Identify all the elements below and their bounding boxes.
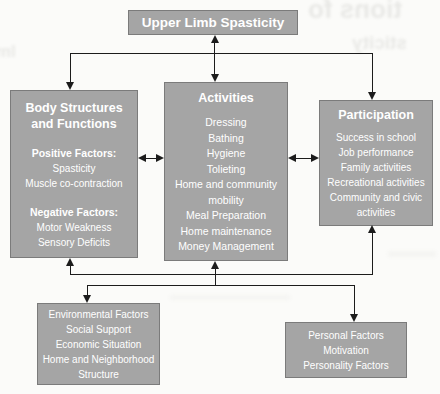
arrowhead-up-into-title-box	[211, 35, 219, 43]
body-structures-functions-box: Body Structures and Functions Positive F…	[10, 90, 138, 258]
participation-item: Family activities	[324, 160, 428, 175]
connector-rail-body	[70, 53, 71, 82]
environmental-factors-box: Environmental Factors Social Support Eco…	[37, 303, 160, 385]
arrowhead-right-into-participation	[311, 154, 319, 162]
connector-bottom-rail-lower	[87, 285, 355, 286]
arrowhead-left-into-body-structures	[138, 154, 146, 162]
environmental-item: Home and Neighborhood Structure	[42, 352, 155, 382]
positive-factor-item: Muscle co-contraction	[15, 176, 133, 191]
scan-smudge	[170, 296, 290, 299]
activity-item: Meal Preparation	[170, 208, 282, 224]
negative-factor-item: Sensory Deficits	[15, 235, 133, 250]
environmental-item: Environmental Factors	[42, 307, 155, 322]
activity-item: Home and community mobility	[170, 177, 282, 208]
positive-factor-item: Spasticity	[15, 161, 133, 176]
personal-item: Personality Factors	[303, 358, 389, 373]
arrowhead-down-into-body-structures	[66, 82, 74, 90]
body-structures-title: Body Structures and Functions	[15, 100, 133, 132]
arrowhead-up-into-body-structures	[66, 258, 74, 266]
activity-item: Hygiene	[170, 146, 282, 162]
arrowhead-down-into-activities	[211, 74, 219, 82]
diagram-title: Upper Limb Spasticity	[142, 15, 285, 31]
personal-factors-box: Personal Factors Motivation Personality …	[285, 322, 407, 378]
positive-factors-heading: Positive Factors:	[15, 146, 133, 161]
activity-item: Dressing	[170, 115, 282, 131]
activities-box: Activities Dressing Bathing Hygiene Toli…	[164, 82, 288, 261]
arrowhead-down-into-participation	[368, 92, 376, 100]
connector-rail-participation-bottom	[372, 231, 373, 274]
negative-factor-item: Motor Weakness	[15, 220, 133, 235]
upper-limb-spasticity-box: Upper Limb Spasticity	[128, 10, 298, 35]
negative-factors-section: Negative Factors: Motor Weakness Sensory…	[15, 205, 133, 250]
activity-item: Tolieting	[170, 162, 282, 178]
environmental-item: Social Support	[42, 322, 155, 337]
participation-item: Job performance	[324, 145, 428, 160]
participation-list: Success in school Job performance Family…	[324, 130, 428, 220]
personal-item: Motivation	[303, 343, 389, 358]
diagram-canvas: tions fo sticity lm Upper Limb Spasticit…	[0, 0, 440, 394]
connector-rail-environmental	[87, 285, 88, 295]
scan-smudge	[388, 252, 436, 256]
scan-bleed-artifact: tions fo	[308, 0, 402, 25]
participation-item: Recreational activities	[324, 175, 428, 190]
connector-title-activities	[214, 40, 215, 75]
negative-factors-heading: Negative Factors:	[15, 205, 133, 220]
arrowhead-down-into-environmental	[83, 295, 91, 303]
environmental-item: Economic Situation	[42, 337, 155, 352]
activities-title: Activities	[170, 90, 282, 106]
connector-rail-personal	[354, 285, 355, 314]
activity-item: Money Management	[170, 239, 282, 255]
connector-activities-participation	[294, 158, 312, 159]
arrowhead-right-into-activities	[156, 154, 164, 162]
connector-top-rail	[70, 53, 373, 54]
personal-item: Personal Factors	[303, 328, 389, 343]
activities-list: Dressing Bathing Hygiene Tolieting Home …	[170, 115, 282, 255]
arrowhead-up-into-participation-bottom	[368, 225, 376, 233]
activity-item: Bathing	[170, 131, 282, 147]
environmental-factors-list: Environmental Factors Social Support Eco…	[42, 307, 155, 382]
arrowhead-left-into-activities	[288, 154, 296, 162]
connector-bottom-rail-upper	[70, 274, 373, 275]
arrowhead-down-into-personal	[350, 314, 358, 322]
activity-item: Home maintenance	[170, 224, 282, 240]
arrowhead-up-into-activities-bottom	[211, 261, 219, 269]
participation-item: Community and civic activities	[324, 190, 428, 220]
participation-item: Success in school	[324, 130, 428, 145]
connector-rail-participation	[372, 53, 373, 92]
participation-box: Participation Success in school Job perf…	[319, 100, 433, 226]
positive-factors-section: Positive Factors: Spasticity Muscle co-c…	[15, 146, 133, 191]
scan-bleed-artifact: sticity	[352, 32, 407, 54]
personal-factors-list: Personal Factors Motivation Personality …	[303, 328, 389, 373]
scan-bleed-artifact: lm	[0, 42, 16, 62]
participation-title: Participation	[324, 107, 428, 123]
connector-rail-activities-bottom	[215, 267, 216, 285]
